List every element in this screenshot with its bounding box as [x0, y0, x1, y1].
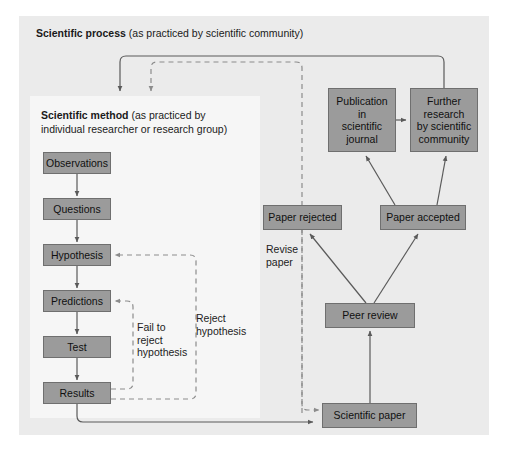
scientific-method-heading: Scientific method (as practiced by indiv…: [41, 108, 227, 136]
scientific-process-subtitle: (as practiced by scientific community): [126, 27, 303, 39]
process-box-label: Peer review: [342, 309, 397, 322]
process-box-publication[interactable]: Publicationinscientificjournal: [328, 88, 396, 152]
process-box-scientific-paper[interactable]: Scientific paper: [322, 403, 417, 428]
process-box-observations[interactable]: Observations: [43, 152, 111, 174]
process-box-paper-accepted[interactable]: Paper accepted: [380, 205, 466, 230]
process-box-questions[interactable]: Questions: [43, 198, 111, 220]
process-box-hypothesis[interactable]: Hypothesis: [43, 244, 111, 266]
edge-label-fail-to-reject: Fail torejecthypothesis: [137, 321, 187, 359]
process-box-label: Test: [67, 341, 86, 354]
process-box-label: Observations: [46, 157, 108, 170]
process-box-predictions[interactable]: Predictions: [43, 290, 111, 312]
process-box-label: Results: [59, 387, 94, 400]
scientific-method-title: Scientific method: [41, 109, 129, 121]
scientific-method-subtitle: (as practiced by: [129, 109, 206, 121]
scientific-process-title: Scientific process: [36, 27, 126, 39]
process-box-further-research[interactable]: Furtherresearchby scientificcommunity: [410, 88, 478, 152]
edge-label-revise-paper: Revisepaper: [266, 243, 298, 268]
diagram-canvas: Scientific process (as practiced by scie…: [0, 0, 506, 468]
process-box-label: Paper rejected: [268, 211, 336, 224]
edge-label-reject-hypothesis: Rejecthypothesis: [196, 312, 246, 337]
process-box-label: Questions: [53, 203, 100, 216]
process-box-label: Predictions: [51, 295, 103, 308]
process-box-peer-review[interactable]: Peer review: [325, 303, 415, 328]
scientific-method-subtitle-line2: individual researcher or research group): [41, 122, 227, 136]
process-box-label: Hypothesis: [51, 249, 103, 262]
process-box-label: Publicationinscientificjournal: [336, 95, 387, 145]
process-box-label: Paper accepted: [386, 211, 460, 224]
process-box-results[interactable]: Results: [43, 382, 111, 404]
process-box-test[interactable]: Test: [43, 336, 111, 358]
process-box-paper-rejected[interactable]: Paper rejected: [263, 205, 342, 230]
process-box-label: Furtherresearchby scientificcommunity: [417, 95, 471, 145]
process-box-label: Scientific paper: [334, 409, 406, 422]
scientific-process-heading: Scientific process (as practiced by scie…: [36, 26, 303, 40]
